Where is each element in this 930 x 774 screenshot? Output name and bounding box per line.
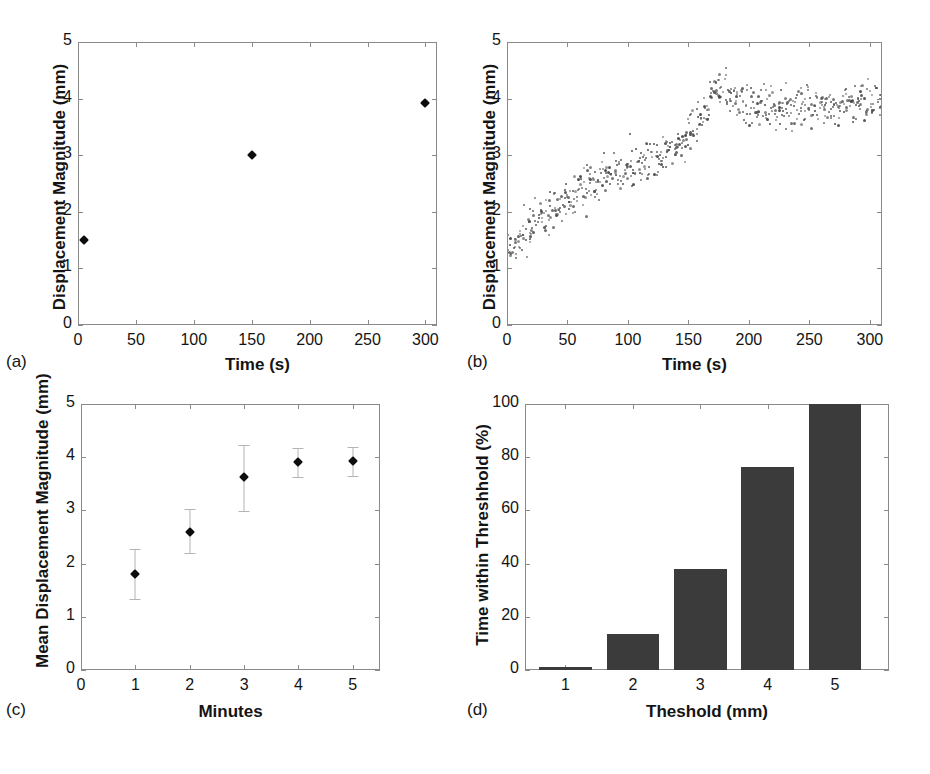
axis-tick-mark-x	[135, 665, 136, 670]
data-point	[567, 196, 570, 199]
axis-tick-mark-y	[507, 212, 512, 213]
data-point	[701, 124, 703, 126]
data-point	[794, 101, 796, 103]
data-point	[725, 67, 727, 69]
data-point	[617, 183, 619, 185]
data-point	[828, 111, 830, 113]
data-point	[521, 249, 523, 251]
axis-tick-mark-x	[567, 320, 568, 325]
axis-tick-mark-y-right	[884, 457, 889, 458]
data-point	[845, 106, 848, 109]
data-point	[576, 200, 578, 202]
data-point	[585, 215, 588, 218]
axis-tick-mark-x-top	[688, 42, 689, 47]
data-point	[814, 110, 816, 112]
data-point	[689, 147, 692, 150]
data-point	[762, 115, 764, 117]
data-point	[579, 183, 582, 186]
axis-tick-label-y: 1	[461, 257, 501, 275]
data-point	[735, 95, 738, 98]
error-bar-cap-top	[184, 509, 195, 510]
data-point	[563, 205, 566, 208]
error-bar-cap-bottom	[347, 476, 358, 477]
data-point	[830, 117, 832, 119]
data-point	[736, 91, 738, 93]
data-point	[709, 81, 711, 83]
axis-tick-label-x: 250	[781, 331, 837, 349]
data-point	[745, 122, 747, 124]
bar	[539, 667, 592, 670]
data-point	[631, 150, 633, 152]
axis-tick-mark-x	[194, 320, 195, 325]
data-point	[522, 234, 524, 236]
data-point	[603, 152, 605, 154]
data-point	[662, 136, 664, 138]
data-point	[626, 165, 629, 168]
data-point	[750, 87, 752, 89]
data-point	[696, 133, 698, 135]
data-point	[648, 166, 650, 168]
data-point	[665, 156, 667, 158]
axis-tick-mark-x-top	[565, 404, 566, 409]
axis-tick-mark-x	[688, 320, 689, 325]
data-point	[661, 160, 663, 162]
axis-tick-label-x: 1	[107, 676, 163, 694]
axis-tick-mark-x-top	[78, 42, 79, 47]
axis-tick-mark-y-right	[884, 404, 889, 405]
data-point	[865, 112, 867, 114]
data-point	[815, 92, 817, 94]
data-point	[751, 122, 753, 124]
data-point	[529, 208, 531, 210]
data-point	[680, 154, 683, 157]
axis-tick-mark-y-right	[432, 212, 437, 213]
axis-tick-mark-y-right	[884, 510, 889, 511]
data-point	[588, 190, 590, 192]
data-point	[779, 123, 781, 125]
data-point	[838, 107, 840, 109]
data-point	[560, 195, 563, 198]
axis-tick-label-x: 300	[397, 331, 453, 349]
data-point	[845, 93, 847, 95]
data-point	[606, 175, 609, 178]
data-point	[877, 101, 879, 103]
axis-tick-mark-x-top	[190, 404, 191, 409]
data-point	[646, 177, 649, 180]
data-point	[791, 130, 793, 132]
data-point	[804, 110, 806, 112]
axis-tick-label-y: 4	[32, 88, 72, 106]
panel-d-y-axis-label: Time within Threshhold (%)	[473, 402, 493, 668]
axis-tick-label-x: 0	[479, 331, 535, 349]
data-point	[858, 100, 860, 102]
data-point	[766, 98, 768, 100]
axis-tick-label-x: 2	[605, 676, 661, 694]
data-point	[819, 107, 821, 109]
axis-tick-mark-y	[525, 564, 530, 565]
error-bar-cap-bottom	[130, 599, 141, 600]
data-point	[800, 92, 803, 95]
data-point	[565, 213, 567, 215]
data-point	[804, 98, 806, 100]
data-point	[569, 190, 571, 192]
data-point	[662, 157, 664, 159]
data-point	[726, 103, 728, 105]
axis-tick-mark-x	[809, 320, 810, 325]
data-point	[515, 257, 517, 259]
data-point	[696, 140, 698, 142]
data-point	[559, 198, 561, 200]
data-point	[662, 166, 664, 168]
axis-tick-mark-y-right	[877, 325, 882, 326]
data-point	[585, 188, 587, 190]
data-point	[785, 82, 787, 84]
data-point	[622, 183, 624, 185]
data-point	[552, 226, 555, 229]
data-point	[594, 196, 596, 198]
data-point	[724, 78, 726, 80]
data-point	[793, 122, 796, 125]
data-point	[750, 107, 752, 109]
data-point	[600, 172, 602, 174]
data-point	[742, 101, 744, 103]
data-point	[865, 113, 868, 116]
data-point	[532, 214, 535, 217]
data-point	[763, 83, 765, 85]
axis-tick-mark-y-right	[432, 155, 437, 156]
